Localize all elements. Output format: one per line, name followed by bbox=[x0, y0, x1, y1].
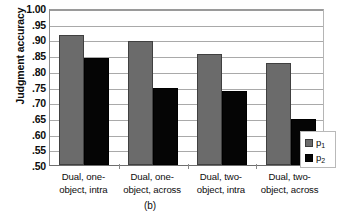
bar-groups bbox=[50, 10, 323, 165]
legend-swatch-black bbox=[305, 154, 313, 162]
x-tick-mark bbox=[188, 164, 189, 169]
bar-p2-1 bbox=[84, 58, 109, 165]
x-label-4: Dual, two-object, across bbox=[255, 170, 324, 196]
bar-p1-4 bbox=[266, 63, 291, 165]
y-tick-p90: .90 bbox=[14, 35, 46, 46]
x-label-line: object, intra bbox=[49, 183, 118, 196]
y-tick-p80: .80 bbox=[14, 67, 46, 78]
x-label-line: Dual, two- bbox=[187, 170, 256, 183]
legend-item-p1: p1 bbox=[305, 135, 335, 150]
y-tick-p70: .70 bbox=[14, 98, 46, 109]
legend-label-subscript: 1 bbox=[321, 142, 325, 149]
x-tick-mark bbox=[256, 164, 257, 169]
y-tick-p85: .85 bbox=[14, 51, 46, 62]
x-label-line: object, across bbox=[118, 183, 187, 196]
legend-label-subscript: 2 bbox=[321, 157, 325, 164]
legend-item-p2: p2 bbox=[305, 150, 335, 165]
legend-label: p1 bbox=[316, 138, 325, 148]
y-tick-p60: .60 bbox=[14, 129, 46, 140]
bar-p1-2 bbox=[128, 41, 153, 165]
y-tick-p55: .55 bbox=[14, 145, 46, 156]
x-label-2: Dual, one-object, across bbox=[118, 170, 187, 196]
y-tick-p65: .65 bbox=[14, 114, 46, 125]
bar-group bbox=[188, 10, 257, 165]
legend-label: p2 bbox=[316, 153, 325, 163]
x-label-line: Dual, one- bbox=[118, 170, 187, 183]
plot-area bbox=[49, 9, 324, 166]
bar-p1-3 bbox=[197, 54, 222, 165]
x-tick-mark bbox=[119, 164, 120, 169]
bar-p1-1 bbox=[59, 35, 84, 165]
y-tick-1p00: 1.00 bbox=[14, 4, 46, 15]
y-tick-p95: .95 bbox=[14, 19, 46, 30]
bar-p2-3 bbox=[222, 91, 247, 165]
x-label-line: Dual, two- bbox=[255, 170, 324, 183]
legend: p1p2 bbox=[300, 131, 336, 168]
figure-caption: (b) bbox=[0, 200, 300, 211]
x-label-3: Dual, two-object, intra bbox=[187, 170, 256, 196]
legend-swatch-gray bbox=[305, 139, 313, 147]
x-label-line: object, intra bbox=[187, 183, 256, 196]
bar-group bbox=[119, 10, 188, 165]
y-tick-p50: .50 bbox=[14, 161, 46, 172]
x-label-line: Dual, one- bbox=[49, 170, 118, 183]
figure-panel-b: Judgment accuracy 1.00.95.90.85.80.75.70… bbox=[0, 0, 344, 218]
x-label-line: object, across bbox=[255, 183, 324, 196]
y-tick-p75: .75 bbox=[14, 82, 46, 93]
x-axis-tick-labels: Dual, one-object, intraDual, one-object,… bbox=[49, 170, 324, 204]
x-label-1: Dual, one-object, intra bbox=[49, 170, 118, 196]
bar-p2-2 bbox=[153, 88, 178, 165]
bar-group bbox=[50, 10, 119, 165]
y-axis-tick-labels: 1.00.95.90.85.80.75.70.65.60.55.50 bbox=[14, 0, 46, 175]
